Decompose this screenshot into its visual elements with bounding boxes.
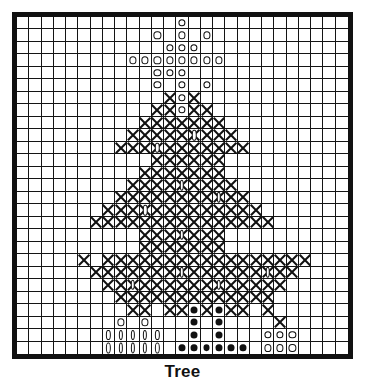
cross-bar xyxy=(201,154,213,166)
stitch-cell xyxy=(189,179,201,191)
stitch-cell xyxy=(225,129,237,141)
stitch-symbol-x-icon xyxy=(164,167,175,178)
stitch-cell xyxy=(140,117,152,129)
stitch-cell xyxy=(176,342,188,354)
cross-bar xyxy=(164,192,176,204)
stitch-cell xyxy=(250,342,262,354)
stitch-cell xyxy=(225,317,237,329)
stitch-symbol-x-icon xyxy=(164,217,175,228)
cross-bar xyxy=(127,179,139,191)
stitch-cell xyxy=(115,192,127,204)
stitch-cell xyxy=(29,179,41,191)
cross-bar xyxy=(237,279,249,291)
cross-bar xyxy=(152,167,164,179)
stitch-symbol-x-icon xyxy=(225,267,236,278)
stitch-cell xyxy=(213,304,225,316)
stitch-cell xyxy=(164,17,176,29)
stitch-cell xyxy=(66,279,78,291)
stitch-cell xyxy=(176,79,188,91)
stitch-cell xyxy=(262,329,274,341)
stitch-cell xyxy=(189,317,201,329)
stitch-symbol-x-icon xyxy=(287,267,298,278)
cross-bar xyxy=(188,142,200,154)
cross-bar xyxy=(152,279,164,291)
cross-bar xyxy=(176,154,188,166)
stitch-cell xyxy=(323,317,335,329)
cross-bar xyxy=(237,254,249,266)
cross-bar xyxy=(213,167,225,179)
stitch-cell xyxy=(250,242,262,254)
stitch-symbol-x-icon xyxy=(213,242,224,253)
stitch-cell xyxy=(54,129,66,141)
stitch-symbol-x-icon xyxy=(164,129,175,140)
cross-bar xyxy=(176,204,188,216)
cross-bar xyxy=(139,179,151,191)
cross-bar xyxy=(176,279,188,291)
stitch-cell xyxy=(299,217,311,229)
cross-bar xyxy=(201,242,213,254)
stitch-cell xyxy=(17,67,29,79)
stitch-cell xyxy=(140,342,152,354)
cross-bar xyxy=(188,217,200,229)
stitch-cell xyxy=(213,217,225,229)
stitch-cell xyxy=(323,217,335,229)
cross-bar xyxy=(213,142,225,154)
cross-bar xyxy=(164,179,176,191)
cross-bar xyxy=(213,117,225,129)
stitch-symbol-x-icon xyxy=(201,242,212,253)
cross-bar xyxy=(237,266,249,278)
cross-bar xyxy=(139,242,151,254)
stitch-symbol-x-icon xyxy=(238,217,249,228)
stitch-cell xyxy=(311,42,323,54)
stitch-cell xyxy=(274,329,286,341)
stitch-symbol-x-icon xyxy=(91,217,102,228)
stitch-cell xyxy=(238,229,250,241)
cross-bar xyxy=(176,129,188,141)
stitch-cell xyxy=(201,79,213,91)
stitch-cell xyxy=(189,279,201,291)
stitch-cell xyxy=(311,104,323,116)
stitch-cell xyxy=(78,104,90,116)
stitch-cell xyxy=(66,179,78,191)
cross-bar xyxy=(152,242,164,254)
stitch-cell xyxy=(91,329,103,341)
cross-bar xyxy=(262,291,274,303)
stitch-cell xyxy=(29,254,41,266)
stitch-cell xyxy=(152,254,164,266)
stitch-cell xyxy=(311,117,323,129)
stitch-cell xyxy=(103,292,115,304)
stitch-symbol-x-icon xyxy=(103,217,114,228)
stitch-cell xyxy=(66,292,78,304)
stitch-cell xyxy=(152,267,164,279)
stitch-symbol-x-icon xyxy=(225,254,236,265)
cross-bar xyxy=(250,217,262,229)
cross-bar xyxy=(139,217,151,229)
cross-bar xyxy=(115,291,127,303)
cross-bar xyxy=(286,254,298,266)
cross-bar xyxy=(237,291,249,303)
stitch-symbol-x-icon xyxy=(213,204,224,215)
stitch-symbol-x-icon xyxy=(176,217,187,228)
stitch-symbol-x-icon xyxy=(238,142,249,153)
stitch-cell xyxy=(189,267,201,279)
stitch-cell xyxy=(238,17,250,29)
cross-bar xyxy=(225,266,237,278)
stitch-cell xyxy=(152,279,164,291)
stitch-cell xyxy=(115,229,127,241)
stitch-symbol-x-icon xyxy=(115,217,126,228)
stitch-cell xyxy=(336,104,348,116)
stitch-cell xyxy=(311,342,323,354)
stitch-cell xyxy=(299,304,311,316)
stitch-cell xyxy=(262,229,274,241)
stitch-cell xyxy=(78,342,90,354)
cross-bar xyxy=(274,254,286,266)
cross-bar xyxy=(164,104,176,116)
stitch-cell xyxy=(103,304,115,316)
stitch-cell xyxy=(66,229,78,241)
stitch-symbol-o-icon xyxy=(213,54,224,65)
stitch-cell xyxy=(54,267,66,279)
stitch-symbol-x-icon xyxy=(152,292,163,303)
stitch-symbol-xv-icon xyxy=(213,192,224,203)
stitch-cell xyxy=(262,79,274,91)
stitch-cell xyxy=(274,242,286,254)
